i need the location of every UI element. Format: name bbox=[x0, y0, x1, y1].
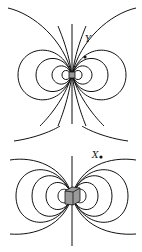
label-x: X bbox=[92, 151, 98, 160]
cube-small bbox=[69, 72, 75, 78]
point-y-dot bbox=[83, 55, 86, 58]
label-y: Y bbox=[85, 35, 91, 44]
point-x-dot bbox=[99, 155, 102, 158]
field-diagram-bottom bbox=[0, 126, 142, 252]
cube-large bbox=[65, 187, 80, 205]
field-diagram-top bbox=[0, 0, 142, 126]
